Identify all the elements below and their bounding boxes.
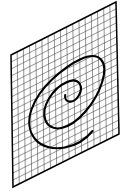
spiral-grid-figure: Spiral curve on a skewed grid plane Blac… [0,0,127,194]
figure-container: Spiral curve on a skewed grid plane Blac… [0,0,127,194]
